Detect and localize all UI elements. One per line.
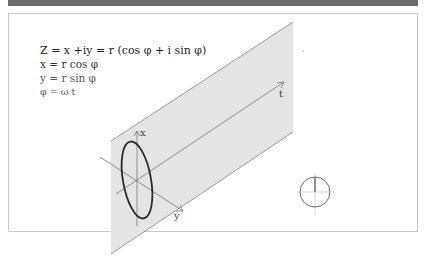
t-axis-label: t bbox=[279, 88, 283, 99]
phasor-circle-icon bbox=[298, 173, 331, 215]
y-axis-label: y bbox=[174, 210, 180, 221]
equation-phase: φ = ω t bbox=[40, 87, 75, 97]
equation-complex: Z = x +iy = r (cos φ + i sin φ) bbox=[40, 45, 206, 56]
x-axis-label: x bbox=[140, 127, 146, 138]
helix-diagram bbox=[0, 0, 427, 274]
equation-y: y = r sin φ bbox=[40, 73, 96, 84]
equation-x: x = r cos φ bbox=[40, 59, 98, 70]
